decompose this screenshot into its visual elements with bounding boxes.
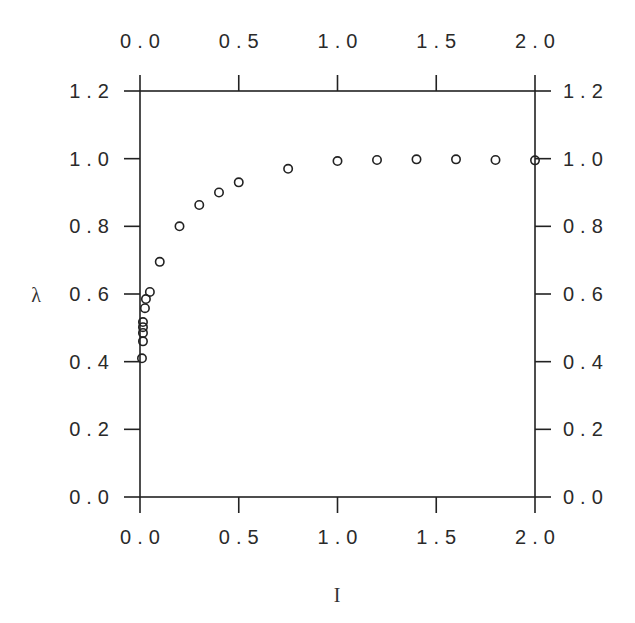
- y-tick-label-right: 0.8: [563, 215, 609, 237]
- data-point-marker: [175, 222, 183, 230]
- y-tick-label: 0.0: [69, 486, 115, 508]
- x-tick-label-top: 1.5: [416, 30, 462, 52]
- y-tick-label-right: 1.0: [563, 148, 609, 170]
- x-tick-label-top: 1.0: [318, 30, 364, 52]
- x-tick-label: 2.0: [515, 526, 561, 548]
- x-axis-top-labels: 0.00.51.01.52.0: [120, 30, 561, 52]
- x-axis-bottom-labels: 0.00.51.01.52.0: [120, 526, 561, 548]
- data-point-marker: [333, 157, 341, 165]
- x-tick-label-top: 0.5: [219, 30, 265, 52]
- plot-frame: [140, 91, 535, 497]
- data-points: [138, 155, 539, 362]
- y-tick-label: 1.0: [69, 148, 115, 170]
- x-tick-label: 0.5: [219, 526, 265, 548]
- y-tick-label: 1.2: [69, 80, 115, 102]
- data-point-marker: [215, 188, 223, 196]
- y-axis-left-labels: 0.00.20.40.60.81.01.2: [69, 80, 115, 508]
- x-tick-label: 1.0: [318, 526, 364, 548]
- y-tick-label: 0.2: [69, 418, 115, 440]
- y-tick-label-right: 0.4: [563, 351, 609, 373]
- data-point-marker: [491, 156, 499, 164]
- x-tick-label: 1.5: [416, 526, 462, 548]
- data-point-marker: [412, 155, 420, 163]
- y-tick-label-right: 1.2: [563, 80, 609, 102]
- scatter-chart: 0.00.51.01.52.0 0.00.51.01.52.0 0.00.20.…: [0, 0, 635, 623]
- y-axis-title: λ: [31, 284, 41, 306]
- y-tick-label: 0.6: [69, 283, 115, 305]
- chart-canvas: 0.00.51.01.52.0 0.00.51.01.52.0 0.00.20.…: [0, 0, 635, 623]
- y-tick-label-right: 0.2: [563, 418, 609, 440]
- y-axis-right-labels: 0.00.20.40.60.81.01.2: [563, 80, 609, 508]
- x-tick-label-top: 0.0: [120, 30, 166, 52]
- y-tick-label: 0.4: [69, 351, 115, 373]
- axis-ticks: [124, 75, 551, 513]
- data-point-marker: [284, 165, 292, 173]
- data-point-marker: [195, 201, 203, 209]
- x-tick-label: 0.0: [120, 526, 166, 548]
- x-tick-label-top: 2.0: [515, 30, 561, 52]
- x-axis-title: I: [334, 584, 341, 606]
- data-point-marker: [235, 178, 243, 186]
- y-tick-label-right: 0.0: [563, 486, 609, 508]
- data-point-marker: [138, 354, 146, 362]
- plot-border: [140, 91, 535, 497]
- data-point-marker: [452, 155, 460, 163]
- y-tick-label: 0.8: [69, 215, 115, 237]
- y-tick-label-right: 0.6: [563, 283, 609, 305]
- data-point-marker: [373, 156, 381, 164]
- data-point-marker: [156, 258, 164, 266]
- data-point-marker: [141, 304, 149, 312]
- data-point-marker: [146, 288, 154, 296]
